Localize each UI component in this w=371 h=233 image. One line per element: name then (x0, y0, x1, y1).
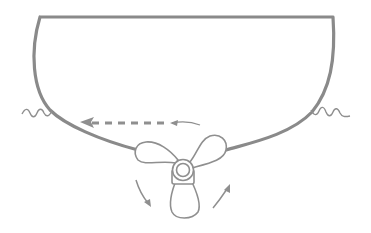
hull-outline (34, 17, 334, 150)
propeller-icon (135, 135, 226, 218)
waterline-left-icon (22, 109, 52, 117)
side-thrust-arrow-icon (80, 117, 200, 128)
hull-diagram (0, 0, 371, 233)
diagram-canvas (0, 0, 371, 233)
waterline-right-icon (311, 107, 350, 116)
